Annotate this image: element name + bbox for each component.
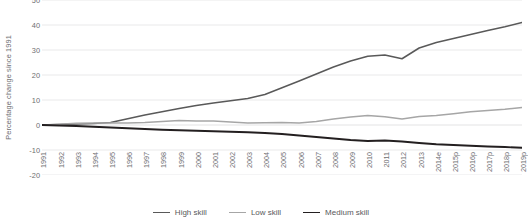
x-axis-tick-labels: 1991199219931994199519961997199819992000… bbox=[42, 152, 522, 202]
series-line-low-skill bbox=[42, 108, 522, 126]
legend-label: Low skill bbox=[251, 208, 281, 217]
x-tick-2005: 2005 bbox=[279, 152, 288, 168]
x-tick-1999: 1999 bbox=[177, 152, 186, 168]
plot-area bbox=[42, 0, 522, 175]
legend-swatch-icon bbox=[153, 212, 170, 213]
legend-label: High skill bbox=[175, 208, 207, 217]
x-tick-1991: 1991 bbox=[39, 152, 48, 168]
plot-wrapper: 50403020100-10-20 bbox=[18, 0, 522, 175]
x-tick-2007: 2007 bbox=[314, 152, 323, 168]
y-tick-50: 50 bbox=[32, 0, 40, 5]
y-tick-20: 20 bbox=[32, 71, 40, 80]
y-axis-tick-labels: 50403020100-10-20 bbox=[18, 0, 40, 175]
x-tick-2003: 2003 bbox=[245, 152, 254, 168]
x-tick-2018p: 2018p bbox=[502, 152, 511, 172]
x-tick-2014e: 2014e bbox=[434, 152, 443, 172]
plot-svg bbox=[42, 0, 522, 175]
x-tick-2008: 2008 bbox=[331, 152, 340, 168]
y-tick-40: 40 bbox=[32, 21, 40, 30]
x-tick-1995: 1995 bbox=[108, 152, 117, 168]
y-tick-0: 0 bbox=[36, 121, 40, 130]
x-tick-2002: 2002 bbox=[228, 152, 237, 168]
y-tick-neg20: -20 bbox=[29, 171, 40, 180]
y-tick-10: 10 bbox=[32, 96, 40, 105]
x-tick-2001: 2001 bbox=[211, 152, 220, 168]
x-tick-1998: 1998 bbox=[159, 152, 168, 168]
y-axis-title: Percentage change since 1991 bbox=[0, 0, 16, 175]
y-tick-30: 30 bbox=[32, 46, 40, 55]
x-tick-2004: 2004 bbox=[262, 152, 271, 168]
x-tick-2016p: 2016p bbox=[468, 152, 477, 172]
legend-item-medium-skill[interactable]: Medium skill bbox=[303, 208, 369, 217]
x-tick-2017p: 2017p bbox=[485, 152, 494, 172]
x-tick-2012: 2012 bbox=[399, 152, 408, 168]
chart-legend: High skillLow skillMedium skill bbox=[0, 202, 522, 222]
x-tick-2015p: 2015p bbox=[451, 152, 460, 172]
x-tick-1996: 1996 bbox=[125, 152, 134, 168]
x-tick-2010: 2010 bbox=[365, 152, 374, 168]
x-tick-1992: 1992 bbox=[57, 152, 66, 168]
legend-item-high-skill[interactable]: High skill bbox=[153, 208, 207, 217]
x-tick-1993: 1993 bbox=[74, 152, 83, 168]
legend-swatch-icon bbox=[229, 212, 246, 213]
x-tick-2011: 2011 bbox=[382, 152, 391, 167]
series-lines bbox=[42, 23, 522, 148]
x-tick-2019p: 2019p bbox=[519, 152, 528, 172]
series-line-high-skill bbox=[42, 23, 522, 126]
x-tick-1994: 1994 bbox=[91, 152, 100, 168]
series-line-medium-skill bbox=[42, 125, 522, 148]
legend-swatch-icon bbox=[303, 212, 320, 213]
legend-item-low-skill[interactable]: Low skill bbox=[229, 208, 281, 217]
legend-label: Medium skill bbox=[325, 208, 369, 217]
x-tick-2006: 2006 bbox=[297, 152, 306, 168]
x-tick-2013: 2013 bbox=[417, 152, 426, 168]
x-tick-2000: 2000 bbox=[194, 152, 203, 168]
y-axis-title-label: Percentage change since 1991 bbox=[4, 35, 13, 140]
x-tick-2009: 2009 bbox=[348, 152, 357, 168]
x-tick-1997: 1997 bbox=[142, 152, 151, 168]
